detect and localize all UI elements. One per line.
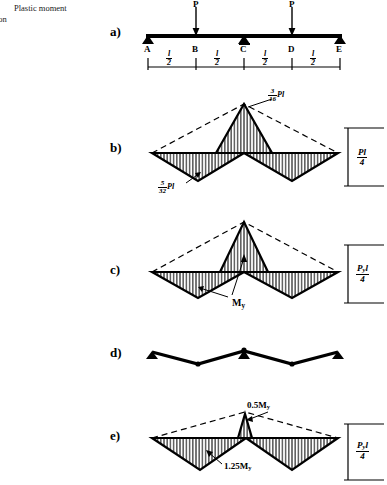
panel-e-drawing (0, 0, 387, 485)
scale-e-num-tail: l (365, 440, 368, 450)
bmd-e-area-right (246, 438, 338, 470)
bmd-e-trough-label: 1.25My (224, 461, 251, 471)
scale-e-den: 4 (356, 452, 369, 461)
figure-page: Plastic moment ion a) b) c) d) e) P P A … (0, 0, 387, 485)
bmd-e-peak-base: 0.5M (247, 400, 267, 410)
bmd-e-trough-base: 1.25M (224, 461, 248, 471)
bmd-e-peak-leader (250, 412, 268, 419)
bmd-e-peak-sub: y (267, 403, 270, 410)
bmd-e-peak-label: 0.5My (247, 400, 270, 410)
bmd-e-trough-sub: y (248, 464, 251, 471)
scale-e-label: Pyl 4 (356, 441, 369, 461)
